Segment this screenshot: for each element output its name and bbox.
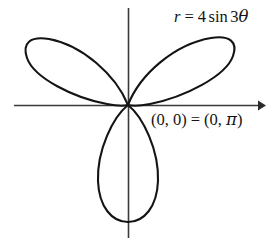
rose-curve bbox=[26, 37, 235, 222]
point-equals: = bbox=[191, 110, 200, 129]
x-axis-arrow-icon bbox=[258, 101, 266, 111]
origin-point-label: (0, 0)=(0, π) bbox=[151, 112, 242, 129]
equation-function: sin bbox=[208, 7, 227, 26]
petal-upper-right bbox=[128, 37, 234, 105]
point-right-coordinate-close: ) bbox=[237, 110, 243, 129]
equation-multiplier: 3 bbox=[230, 7, 238, 26]
equation-label: r=4sin3θ bbox=[174, 9, 248, 26]
pi-icon: π bbox=[226, 110, 237, 129]
point-right-coordinate-prefix: (0, bbox=[204, 110, 226, 129]
equation-variable: r bbox=[174, 7, 180, 26]
petal-upper-left bbox=[26, 38, 128, 105]
point-left-coordinate: (0, 0) bbox=[151, 110, 187, 129]
equation-coefficient: 4 bbox=[198, 7, 206, 26]
equation-theta-icon: θ bbox=[239, 7, 249, 26]
polar-rose-figure: r=4sin3θ (0, 0)=(0, π) bbox=[0, 0, 279, 238]
equation-equals: = bbox=[184, 7, 193, 26]
